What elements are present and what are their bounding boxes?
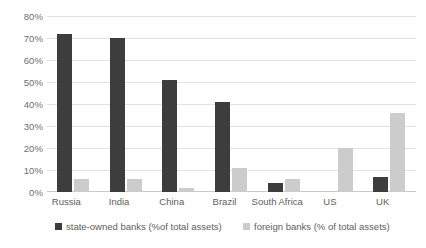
y-axis-tick-label: 30% <box>24 121 43 132</box>
legend-item-foreign-banks: foreign banks (% of total assets) <box>243 222 390 232</box>
bar-foreign-india <box>127 179 142 192</box>
legend-swatch-foreign-banks <box>243 223 250 230</box>
bar-foreign-us <box>338 148 353 192</box>
bar-state-owned-india <box>110 38 125 192</box>
y-axis-tick-label: 50% <box>24 77 43 88</box>
x-axis-label-us: US <box>323 196 336 207</box>
bar-foreign-china <box>179 188 194 192</box>
y-axis-labels: 80%70%60%50%40%30%20%10%0% <box>0 16 43 192</box>
y-axis-tick-label: 10% <box>24 165 43 176</box>
bar-group <box>152 16 205 192</box>
bar-group <box>47 16 100 192</box>
bar-foreign-south-africa <box>285 179 300 192</box>
y-axis-tick-label: 60% <box>24 55 43 66</box>
bar-group <box>363 16 416 192</box>
x-axis-label-south-africa: South Africa <box>252 196 303 207</box>
bar-state-owned-uk <box>373 177 388 192</box>
y-axis-tick-label: 70% <box>24 33 43 44</box>
legend-swatch-state-owned-banks <box>55 223 62 230</box>
bar-foreign-brazil <box>232 168 247 192</box>
x-axis-label-china: China <box>159 196 184 207</box>
bar-foreign-russia <box>74 179 89 192</box>
x-axis-label-brazil: Brazil <box>213 196 237 207</box>
chart-legend: state-owned banks (%of total assets) for… <box>0 222 426 240</box>
x-axis-label-uk: UK <box>376 196 389 207</box>
bar-state-owned-china <box>162 80 177 192</box>
y-axis-tick-label: 0% <box>29 187 43 198</box>
legend-item-state-owned-banks: state-owned banks (%of total assets) <box>55 222 222 232</box>
bar-foreign-uk <box>390 113 405 192</box>
y-axis-tick-label: 20% <box>24 143 43 154</box>
bar-state-owned-south-africa <box>268 183 283 192</box>
bar-state-owned-brazil <box>215 102 230 192</box>
bar-state-owned-russia <box>57 34 72 192</box>
legend-label-foreign-banks: foreign banks (% of total assets) <box>254 222 390 232</box>
bar-group <box>205 16 258 192</box>
y-axis-tick-label: 40% <box>24 99 43 110</box>
x-axis-labels: RussiaIndiaChinaBrazilSouth AfricaUSUK <box>47 194 416 212</box>
legend-label-state-owned-banks: state-owned banks (%of total assets) <box>66 222 222 232</box>
x-axis-label-russia: Russia <box>52 196 81 207</box>
bar-group <box>311 16 364 192</box>
bar-group <box>258 16 311 192</box>
bar-group <box>100 16 153 192</box>
x-axis-label-india: India <box>109 196 130 207</box>
plot-area <box>47 16 416 192</box>
bar-chart: 80%70%60%50%40%30%20%10%0% RussiaIndiaCh… <box>0 0 426 248</box>
y-axis-tick-label: 80% <box>24 11 43 22</box>
